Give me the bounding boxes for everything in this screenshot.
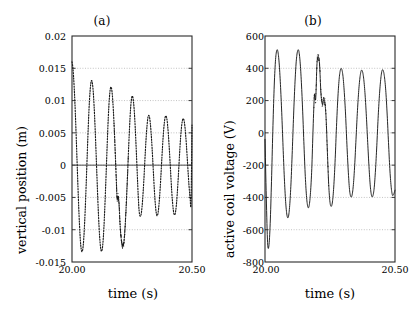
panel-b-plot (208, 0, 420, 313)
panel-a-plot (0, 0, 212, 313)
panel-b: (b) active coil voltage (V) time (s) 600… (208, 0, 420, 313)
panel-a: (a) vertical position (m) time (s) 0.02 … (0, 0, 212, 313)
figure-container: (a) vertical position (m) time (s) 0.02 … (0, 0, 420, 313)
